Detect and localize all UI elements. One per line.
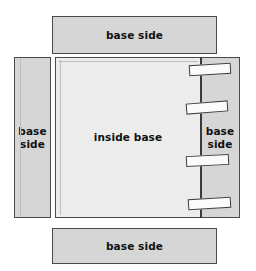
- crease-line-inside-left: [60, 60, 61, 215]
- panel-base-side-top: base side: [52, 16, 217, 54]
- panel-base-side-right: base side: [200, 57, 240, 218]
- glue-tab-3: [186, 154, 230, 167]
- panel-left-label: base side: [18, 125, 46, 149]
- crease-line-inside-top: [58, 61, 198, 62]
- panel-bottom-label: base side: [106, 240, 163, 252]
- base-diagram: base side base side inside base base sid…: [0, 0, 256, 271]
- fold-line-right: [200, 57, 202, 218]
- panel-top-label: base side: [106, 29, 163, 41]
- panel-inside-base: inside base: [55, 57, 201, 218]
- panel-right-label: base side: [206, 125, 234, 149]
- panel-inside-label: inside base: [94, 131, 162, 143]
- crease-line-left: [20, 59, 21, 216]
- panel-base-side-bottom: base side: [52, 228, 217, 264]
